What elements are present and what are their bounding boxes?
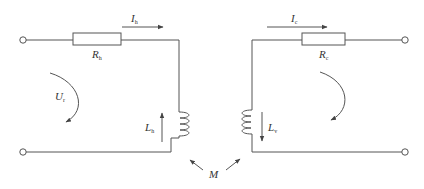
primary-circuit [20,33,189,155]
mutual-arrow-right [226,159,240,170]
label-ur: Ur [55,90,65,103]
primary-terminal-bottom [20,149,26,155]
label-m: M [208,168,219,180]
circuit-diagram: Ih Rh Lh Ur Ic Rc Lv M [0,0,424,189]
secondary-terminal-bottom [402,149,408,155]
label-ih: Ih [130,12,138,25]
inductor-lv [242,110,252,134]
mutual-arrow-left [190,160,203,170]
secondary-terminal-top [402,37,408,43]
label-lv: Lv [267,121,277,134]
label-rh: Rh [91,48,102,61]
loop-curve-arrow-secondary [320,72,345,120]
resistor-rh [73,33,121,45]
label-rc: Rc [318,48,329,61]
resistor-rc [302,33,345,45]
label-ic: Ic [290,12,298,25]
primary-terminal-top [20,37,26,43]
inductor-lh [179,112,189,136]
label-lh: Lh [144,121,154,134]
